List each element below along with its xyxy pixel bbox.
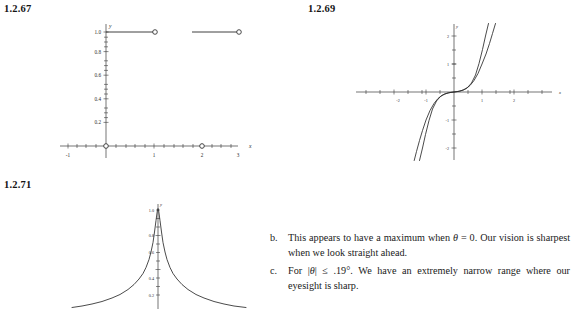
y-ticklabel-1-0: 1.0	[95, 29, 102, 35]
figure-1271: 1.0 0.8 0.6 0.4 0.2 y	[70, 196, 250, 309]
figure-1267: 1.0 0.8 0.6 0.4 0.2 -1 1 2 3 y x	[60, 18, 270, 166]
x-ticklabel-minus1: -1	[66, 152, 71, 158]
x-ticklabel-2: 2	[201, 152, 204, 158]
answer-text-b-part1: This appears to have a maximum when	[288, 232, 453, 243]
answer-item-c: c. For |θ| ≤ .19°. We have an extremely …	[270, 264, 570, 293]
y-axis-label: y	[159, 202, 162, 207]
problem-heading-1267: 1.2.67	[4, 3, 31, 14]
x-ticklabel-minus1: -1	[424, 98, 428, 103]
answer-marker-c: c.	[270, 264, 285, 279]
y-ticklabel-minus1: -1	[446, 118, 450, 123]
problem-heading-1269: 1.2.69	[308, 3, 335, 14]
answer-item-b: b. This appears to have a maximum when θ…	[270, 231, 570, 260]
y-ticklabel-0-6: 0.6	[149, 250, 154, 255]
x-axis-label: x	[558, 90, 561, 95]
answer-marker-b: b.	[270, 231, 285, 246]
y-ticklabel-0-4: 0.4	[95, 96, 102, 102]
y-ticklabel-1: 1	[447, 62, 449, 67]
x-ticklabel-minus2: -2	[396, 98, 400, 103]
y-ticklabel-2: 2	[447, 34, 449, 39]
curve-sharpness	[72, 209, 246, 308]
answer-text-c-part1: For |	[288, 265, 310, 276]
open-circle-1-1	[153, 30, 158, 35]
problem-heading-1271: 1.2.71	[4, 179, 31, 190]
y-ticklabel-0-2: 0.2	[149, 293, 154, 298]
y-ticklabel-minus2: -2	[446, 146, 450, 151]
open-circle-0-0	[104, 144, 109, 149]
x-axis-label: x	[248, 143, 252, 149]
x-ticklabel-2: 2	[513, 98, 515, 103]
y-ticklabel-0-8: 0.8	[95, 49, 102, 55]
open-circle-2-0	[200, 144, 205, 149]
x-ticklabel-1: 1	[481, 98, 483, 103]
x-ticklabel-3: 3	[237, 152, 240, 158]
y-ticklabel-0-6: 0.6	[95, 72, 102, 78]
y-ticklabel-0-4: 0.4	[149, 276, 155, 281]
solutions-page: 1.2.67	[0, 0, 575, 309]
y-ticklabel-0-8: 0.8	[149, 233, 154, 238]
open-circle-3-1	[237, 30, 242, 35]
answer-text-c-part2: | ≤ .19°. We have an extremely narrow ra…	[288, 265, 570, 291]
figure-1269: -2 -1 1 2 2 1 -1 -2 y x	[352, 20, 570, 164]
x-ticklabel-1: 1	[153, 152, 156, 158]
y-ticklabel-1-0: 1.0	[149, 208, 154, 213]
answer-text-block: b. This appears to have a maximum when θ…	[270, 231, 570, 297]
y-axis-label: y	[455, 24, 458, 29]
y-ticklabel-0-2: 0.2	[95, 119, 102, 125]
y-axis-label: y	[108, 23, 112, 29]
